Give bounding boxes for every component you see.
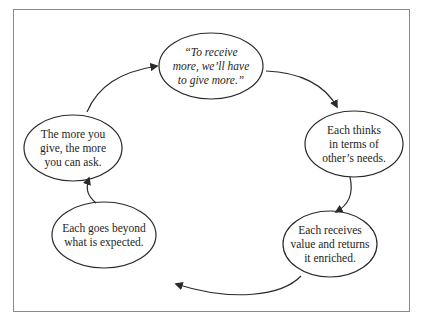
node-text: Each thinks in terms of other’s needs.: [322, 123, 386, 165]
node-returns-enriched: Each receives value and returns it enric…: [283, 211, 377, 277]
node-text: Each goes beyond what is expected.: [62, 221, 146, 249]
arrow-left-to-top: [87, 66, 157, 112]
node-more-you-give: The more you give, the more you can ask.: [24, 115, 122, 181]
node-text: Each receives value and returns it enric…: [290, 223, 369, 265]
node-goes-beyond: Each goes beyond what is expected.: [52, 202, 156, 268]
arrow-top-to-right: [266, 71, 337, 107]
node-give-more-quote: “To receive more, we’ll have to give mor…: [159, 33, 263, 99]
node-text: The more you give, the more you can ask.: [40, 127, 106, 169]
arrow-bottom-right-to-bottom-left: [176, 276, 301, 295]
node-text: “To receive more, we’ll have to give mor…: [173, 45, 250, 87]
arrow-bottom-left-to-left: [87, 178, 96, 203]
node-others-needs: Each thinks in terms of other’s needs.: [305, 111, 403, 177]
arrow-right-to-bottom-right: [336, 177, 351, 212]
